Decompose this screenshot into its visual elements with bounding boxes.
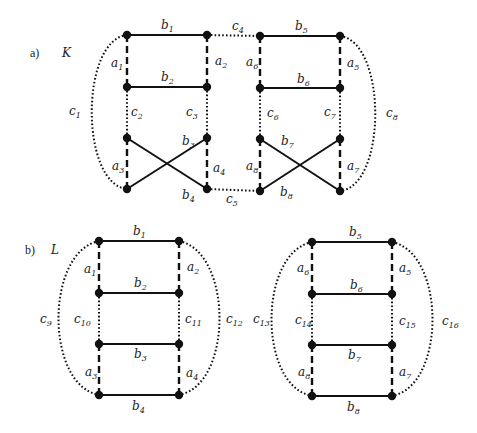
label-a4: a4 (186, 366, 198, 382)
label-b7: b7 (281, 134, 295, 150)
label-a6: a6 (246, 55, 258, 71)
label-b4: b4 (132, 399, 145, 415)
label-c11: c11 (185, 312, 202, 328)
label-b3: b3 (182, 134, 195, 150)
label-b7: b7 (348, 348, 362, 364)
k-edge-labels: b1 b2 b3 b4 a1 a2 a3 a4 c1 c2 c3 c4 c5 b… (69, 18, 398, 208)
label-c4: c4 (232, 19, 244, 35)
node (123, 134, 131, 142)
node (95, 340, 103, 348)
node (123, 31, 131, 39)
label-c3: c3 (186, 105, 198, 121)
figure: a) K (0, 0, 477, 433)
node (175, 237, 183, 245)
node (203, 185, 211, 193)
label-b6: b6 (297, 72, 310, 88)
node (256, 32, 264, 40)
label-a1: a1 (111, 56, 123, 72)
label-a7: a7 (399, 365, 412, 381)
node (256, 135, 264, 143)
label-b1: b1 (133, 224, 146, 240)
node (308, 392, 316, 400)
label-c8: c8 (386, 106, 398, 122)
label-b5: b5 (295, 19, 308, 35)
label-b4: b4 (182, 188, 195, 204)
label-b5: b5 (349, 225, 362, 241)
label-a5: a5 (399, 261, 411, 277)
node (388, 341, 396, 349)
label-a5: a5 (347, 56, 359, 72)
node (95, 289, 103, 297)
panel-a-label: a) (30, 46, 39, 60)
label-c5: c5 (226, 192, 238, 208)
node (388, 290, 396, 298)
label-a3: a3 (112, 159, 124, 175)
label-b6: b6 (350, 278, 363, 294)
node (95, 237, 103, 245)
label-a7: a7 (347, 159, 360, 175)
edge-c5 (207, 189, 260, 191)
node (175, 391, 183, 399)
label-a2: a2 (187, 260, 199, 276)
label-a6: a6 (297, 261, 309, 277)
node (123, 83, 131, 91)
node (336, 32, 344, 40)
label-a4: a4 (213, 161, 225, 177)
panel-b: b) L (25, 224, 459, 416)
l-nodes (95, 237, 396, 400)
node (308, 290, 316, 298)
label-c9: c9 (40, 312, 52, 328)
node (175, 340, 183, 348)
graph-k-name: K (61, 46, 72, 60)
node (308, 238, 316, 246)
edge-c4 (207, 35, 260, 36)
node (203, 83, 211, 91)
label-a8: a8 (246, 159, 258, 175)
label-a8: a8 (298, 365, 310, 381)
label-c6: c6 (267, 106, 279, 122)
label-c2: c2 (131, 105, 143, 121)
label-c7: c7 (324, 105, 337, 121)
node (95, 391, 103, 399)
label-b3: b3 (134, 347, 147, 363)
panel-b-label: b) (25, 243, 35, 257)
label-a1: a1 (84, 262, 96, 278)
node (336, 187, 344, 195)
node (388, 238, 396, 246)
graph-l-name: L (50, 243, 59, 257)
node (336, 135, 344, 143)
label-a2: a2 (215, 54, 227, 70)
label-c1: c1 (69, 104, 81, 120)
label-c14: c14 (295, 313, 312, 329)
node (388, 392, 396, 400)
node (308, 341, 316, 349)
label-c12: c12 (226, 312, 243, 328)
label-b2: b2 (161, 70, 174, 86)
label-b2: b2 (134, 276, 147, 292)
label-c15: c15 (399, 314, 416, 330)
panel-a: a) K (30, 18, 398, 208)
label-b8: b8 (280, 185, 293, 201)
node (203, 31, 211, 39)
diagram-canvas: a) K (0, 0, 477, 433)
label-b1: b1 (161, 18, 174, 34)
label-c13: c13 (253, 312, 270, 328)
node (256, 84, 264, 92)
node (336, 84, 344, 92)
label-c10: c10 (74, 312, 91, 328)
node (123, 185, 131, 193)
label-b8: b8 (347, 400, 360, 416)
node (175, 289, 183, 297)
node (203, 134, 211, 142)
label-a3: a3 (85, 365, 97, 381)
node (256, 187, 264, 195)
label-c16: c16 (442, 314, 459, 330)
l-edge-labels: b1 b2 b3 b4 a1 a2 a3 a4 c9 c10 c11 c12 b… (40, 224, 459, 416)
